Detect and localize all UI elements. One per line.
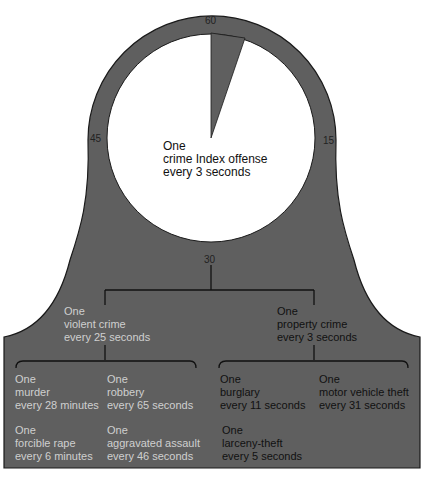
property-crime-label: One property crime every 3 seconds [277,305,357,344]
mvt-line-2: motor vehicle theft [319,386,409,399]
property-line-1: One [277,305,357,318]
murder-label: One murder every 28 minutes [15,373,99,412]
crime-clock-diagram: 60 15 30 45 One crime Index offense ever… [0,0,425,480]
assault-label: One aggravated assault every 46 seconds [107,424,200,463]
burglary-line-1: One [220,373,305,386]
larceny-line-1: One [222,424,302,437]
rape-line-1: One [15,424,93,437]
property-line-2: property crime [277,318,357,331]
tick-60: 60 [205,15,216,26]
tick-15: 15 [323,135,334,146]
property-line-3: every 3 seconds [277,331,357,344]
robbery-line-1: One [107,373,193,386]
center-line-3: every 3 seconds [163,166,268,179]
rape-line-2: forcible rape [15,437,93,450]
murder-line-1: One [15,373,99,386]
mvt-line-3: every 31 seconds [319,399,409,412]
larceny-theft-label: One larceny-theft every 5 seconds [222,424,302,463]
violent-crime-label: One violent crime every 25 seconds [64,305,150,344]
robbery-label: One robbery every 65 seconds [107,373,193,412]
rape-label: One forcible rape every 6 minutes [15,424,93,463]
tick-30: 30 [204,254,215,265]
burglary-line-3: every 11 seconds [220,399,305,412]
larceny-line-2: larceny-theft [222,437,302,450]
assault-line-2: aggravated assault [107,437,200,450]
violent-line-1: One [64,305,150,318]
assault-line-1: One [107,424,200,437]
motor-vehicle-theft-label: One motor vehicle theft every 31 seconds [319,373,409,412]
mvt-line-1: One [319,373,409,386]
murder-line-2: murder [15,386,99,399]
assault-line-3: every 46 seconds [107,450,200,463]
murder-line-3: every 28 minutes [15,399,99,412]
tick-45: 45 [90,133,101,144]
rape-line-3: every 6 minutes [15,450,93,463]
burglary-line-2: burglary [220,386,305,399]
larceny-line-3: every 5 seconds [222,450,302,463]
robbery-line-2: robbery [107,386,193,399]
robbery-line-3: every 65 seconds [107,399,193,412]
violent-line-3: every 25 seconds [64,331,150,344]
violent-line-2: violent crime [64,318,150,331]
total-crime-label: One crime Index offense every 3 seconds [163,140,268,179]
burglary-label: One burglary every 11 seconds [220,373,305,412]
